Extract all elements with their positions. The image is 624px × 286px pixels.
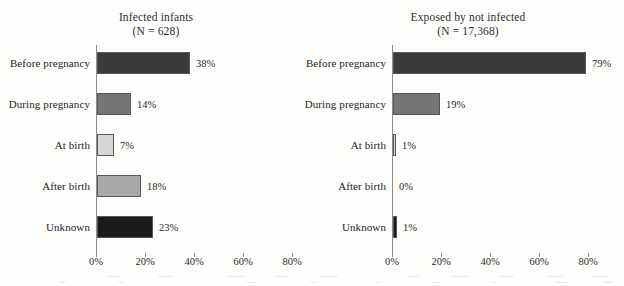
x-tick-label-right-0: 0% (385, 256, 399, 267)
category-label-unknown-right: Unknown (342, 221, 386, 233)
bar-row-left-1: During pregnancy 14% (97, 93, 312, 115)
chart-panel-exposed-not-infected: Exposed by not infected (N = 17,368) Bef… (312, 0, 624, 286)
bar-row-right-4: Unknown 1% (393, 216, 624, 238)
x-tick-label-right-60: 60% (529, 256, 548, 267)
bar-row-left-2: At birth 7% (97, 134, 312, 156)
x-tick-label-left-20: 20% (135, 256, 154, 267)
category-label-before-pregnancy-right: Before pregnancy (306, 57, 386, 69)
bar-value-left-unknown: 23% (159, 222, 178, 233)
bar-row-right-0: Before pregnancy 79% (393, 52, 624, 74)
category-label-before-pregnancy-left: Before pregnancy (10, 57, 90, 69)
bar-right-at-birth (393, 134, 396, 156)
bar-value-left-at-birth: 7% (120, 140, 134, 151)
category-label-unknown-left: Unknown (46, 221, 90, 233)
bar-left-after-birth (97, 175, 141, 197)
bar-right-unknown (393, 216, 397, 238)
bar-row-right-3: After birth 0% (393, 175, 624, 197)
figure-container: Infected infants (N = 628) Before pregna… (0, 0, 624, 286)
plot-area-left: Before pregnancy 38% During pregnancy 14… (0, 0, 312, 286)
x-tick-label-right-20: 20% (431, 256, 450, 267)
x-tick-label-left-0: 0% (89, 256, 103, 267)
x-tick-label-right-40: 40% (480, 256, 499, 267)
x-tick-label-left-80: 80% (282, 256, 301, 267)
bar-row-right-2: At birth 1% (393, 134, 624, 156)
category-label-after-birth-right: After birth (338, 180, 386, 192)
bar-left-at-birth (97, 134, 114, 156)
bar-left-unknown (97, 216, 153, 238)
bar-value-right-at-birth: 1% (402, 140, 416, 151)
bar-value-right-before-pregnancy: 79% (592, 58, 611, 69)
bar-right-during-pregnancy (393, 93, 440, 115)
bar-value-right-during-pregnancy: 19% (446, 99, 465, 110)
bar-left-during-pregnancy (97, 93, 131, 115)
bar-value-left-during-pregnancy: 14% (137, 99, 156, 110)
plot-area-right: Before pregnancy 79% During pregnancy 19… (312, 0, 624, 286)
bar-left-before-pregnancy (97, 52, 190, 74)
category-label-at-birth-left: At birth (55, 139, 90, 151)
bar-row-left-4: Unknown 23% (97, 216, 312, 238)
bar-row-left-0: Before pregnancy 38% (97, 52, 312, 74)
bar-value-left-after-birth: 18% (147, 181, 166, 192)
bar-value-right-after-birth: 0% (399, 181, 413, 192)
chart-panel-infected-infants: Infected infants (N = 628) Before pregna… (0, 0, 312, 286)
x-tick-label-left-60: 60% (233, 256, 252, 267)
x-tick-label-right-80: 80% (578, 256, 597, 267)
category-label-at-birth-right: At birth (351, 139, 386, 151)
category-label-after-birth-left: After birth (42, 180, 90, 192)
bar-row-right-1: During pregnancy 19% (393, 93, 624, 115)
x-tick-label-left-40: 40% (184, 256, 203, 267)
bar-value-left-before-pregnancy: 38% (196, 58, 215, 69)
bar-row-left-3: After birth 18% (97, 175, 312, 197)
category-label-during-pregnancy-left: During pregnancy (9, 98, 90, 110)
category-label-during-pregnancy-right: During pregnancy (305, 98, 386, 110)
bar-value-right-unknown: 1% (403, 222, 417, 233)
bar-right-before-pregnancy (393, 52, 586, 74)
